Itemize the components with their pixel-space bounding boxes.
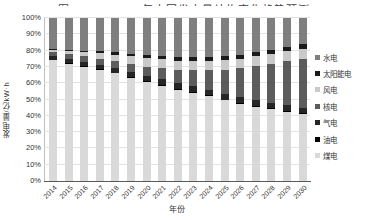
- bar-segment-核电: [111, 61, 119, 68]
- x-tick-label: 2016: [73, 184, 89, 200]
- bar-segment-风电: [252, 56, 260, 66]
- legend-label: 煤电: [323, 150, 337, 161]
- bar-segment-风电: [267, 54, 275, 64]
- legend-swatch: [315, 153, 320, 158]
- bar-segment-水电: [80, 18, 88, 51]
- legend-swatch: [315, 71, 320, 76]
- chart-title: 图 2014—2030年中国发电量结构变化趋势预测: [0, 0, 368, 6]
- legend-swatch: [315, 55, 320, 60]
- legend-item-太阳能电: 太阳能电: [315, 65, 367, 81]
- x-tick-label: 2025: [214, 184, 230, 200]
- bar-2017: [96, 18, 104, 181]
- legend-item-煤电: 煤电: [315, 147, 367, 163]
- y-tick-label: 70%: [0, 63, 41, 71]
- chart-canvas: 图 2014—2030年中国发电量结构变化趋势预测 发电量/亿kW·h 100%…: [0, 0, 368, 220]
- bar-segment-煤电: [49, 60, 57, 181]
- bar-segment-风电: [205, 61, 213, 70]
- bar-segment-煤电: [189, 93, 197, 181]
- bar-segment-水电: [65, 18, 73, 50]
- bar-segment-煤电: [65, 64, 73, 181]
- x-tick-label: 2021: [151, 184, 167, 200]
- x-tick-label: 2020: [136, 184, 152, 200]
- legend-swatch: [315, 87, 320, 92]
- bar-segment-水电: [158, 18, 166, 56]
- bar-segment-风电: [174, 61, 182, 70]
- x-axis-title: 年份: [44, 203, 310, 214]
- bar-segment-水电: [252, 18, 260, 52]
- bar-segment-风电: [221, 60, 229, 70]
- bar-2023: [189, 18, 197, 181]
- bar-segment-水电: [189, 18, 197, 57]
- bar-2024: [205, 18, 213, 181]
- bar-segment-水电: [111, 18, 119, 52]
- bar-segment-核电: [174, 70, 182, 84]
- bar-segment-煤电: [236, 104, 244, 181]
- y-tick-label: 90%: [0, 30, 41, 38]
- x-tick-label: 2014: [42, 184, 58, 200]
- bar-segment-核电: [283, 61, 291, 105]
- legend-item-核电: 核电: [315, 98, 367, 114]
- legend-swatch: [315, 104, 320, 109]
- bar-segment-煤电: [143, 82, 151, 181]
- bar-segment-水电: [96, 18, 104, 51]
- bar-segment-水电: [283, 18, 291, 47]
- bar-segment-风电: [189, 61, 197, 70]
- y-tick-label: 40%: [0, 112, 41, 120]
- bar-segment-水电: [236, 18, 244, 55]
- bar-segment-煤电: [299, 114, 307, 181]
- x-tick-label: 2028: [260, 184, 276, 200]
- x-axis-line: [44, 181, 311, 182]
- legend-label: 核电: [323, 101, 337, 112]
- x-tick-label: 2015: [58, 184, 74, 200]
- legend: 水电太阳能电风电核电气电油电煤电: [315, 49, 367, 164]
- x-tick-label: 2017: [89, 184, 105, 200]
- legend-swatch: [315, 120, 320, 125]
- bar-2029: [283, 18, 291, 181]
- bar-segment-煤电: [221, 100, 229, 181]
- bar-2016: [80, 18, 88, 181]
- bar-segment-核电: [143, 67, 151, 76]
- bar-segment-煤电: [80, 67, 88, 181]
- bar-segment-水电: [299, 18, 307, 44]
- bar-segment-核电: [158, 68, 166, 79]
- bar-segment-煤电: [158, 86, 166, 181]
- bar-2015: [65, 18, 73, 181]
- bar-2020: [143, 18, 151, 181]
- bar-2028: [267, 18, 275, 181]
- bar-2030: [299, 18, 307, 181]
- y-tick-label: 80%: [0, 47, 41, 55]
- legend-label: 水电: [323, 52, 337, 63]
- bar-segment-风电: [127, 56, 135, 63]
- bar-segment-核电: [221, 70, 229, 94]
- legend-item-水电: 水电: [315, 49, 367, 65]
- bar-segment-水电: [205, 18, 213, 57]
- bar-segment-核电: [205, 70, 213, 90]
- bar-segment-煤电: [283, 112, 291, 181]
- bar-segment-核电: [189, 70, 197, 86]
- bar-segment-核电: [299, 59, 307, 108]
- bar-segment-风电: [143, 58, 151, 66]
- legend-label: 油电: [323, 134, 337, 145]
- bar-segment-水电: [143, 18, 151, 55]
- bar-segment-煤电: [111, 73, 119, 181]
- x-tick-label: 2018: [104, 184, 120, 200]
- bar-segment-风电: [283, 51, 291, 61]
- legend-item-气电: 气电: [315, 115, 367, 131]
- y-tick-label: 10%: [0, 161, 41, 169]
- legend-item-风电: 风电: [315, 82, 367, 98]
- y-tick-label: 0%: [0, 177, 41, 185]
- y-tick-label: 100%: [0, 14, 41, 22]
- bar-segment-水电: [174, 18, 182, 57]
- bar-2027: [252, 18, 260, 181]
- plot-area: [44, 18, 310, 181]
- bar-2019: [127, 18, 135, 181]
- bar-2018: [111, 18, 119, 181]
- bar-segment-风电: [158, 59, 166, 68]
- bar-2026: [236, 18, 244, 181]
- bar-segment-核电: [267, 64, 275, 103]
- bar-segment-煤电: [252, 107, 260, 181]
- legend-label: 太阳能电: [323, 68, 351, 79]
- bar-segment-煤电: [174, 90, 182, 181]
- bar-segment-煤电: [96, 70, 104, 181]
- bar-2021: [158, 18, 166, 181]
